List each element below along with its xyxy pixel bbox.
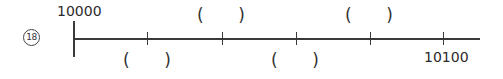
close-paren: ) [238,5,245,25]
close-paren: ) [164,50,171,70]
tick-3 [296,32,297,45]
answer-blank-2[interactable]: ( ) [197,6,245,24]
start-label: 10000 [57,3,102,19]
open-paren: ( [197,5,204,25]
end-label: 10100 [424,49,469,65]
tick-4 [370,32,371,45]
question-number-badge: 18 [23,29,40,46]
open-paren: ( [123,50,130,70]
open-paren: ( [345,5,352,25]
tick-end [443,32,444,45]
close-paren: ) [312,50,319,70]
close-paren: ) [386,5,393,25]
number-line-axis [74,38,480,40]
open-paren: ( [271,50,278,70]
answer-blank-1[interactable]: ( ) [123,51,171,69]
answer-blank-3[interactable]: ( ) [271,51,319,69]
tick-2 [222,32,223,45]
answer-blank-4[interactable]: ( ) [345,6,393,24]
tick-1 [147,32,148,45]
